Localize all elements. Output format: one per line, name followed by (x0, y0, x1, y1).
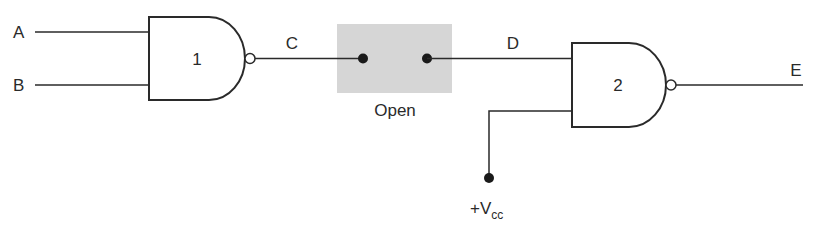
logic-circuit-diagram: A B 1 Open C D 2 E +Vcc (0, 0, 820, 235)
switch-contact-left (358, 54, 368, 64)
vcc-subscript: cc (491, 208, 503, 222)
label-a: A (13, 23, 25, 42)
nand-gate-2: 2 (572, 43, 676, 127)
label-d: D (507, 34, 519, 53)
vcc-terminal (484, 173, 494, 183)
nand-gate-1: 1 (149, 17, 255, 100)
gate-2-inversion-bubble (666, 80, 676, 90)
label-c: C (286, 34, 298, 53)
gate-2-label: 2 (613, 76, 622, 95)
vcc-label: +Vcc (470, 199, 503, 222)
label-e: E (790, 61, 801, 80)
vcc-prefix: +V (470, 199, 492, 218)
switch-state-label: Open (374, 101, 416, 120)
input-wires (35, 32, 149, 85)
gate-1-inversion-bubble (245, 54, 255, 64)
gate-1-label: 1 (192, 50, 201, 69)
wire-vcc (489, 111, 572, 178)
label-b: B (13, 76, 24, 95)
